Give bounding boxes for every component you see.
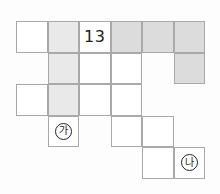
grid-cell — [79, 84, 111, 116]
number-grid-diagram: 13가나 — [0, 0, 220, 194]
grid-cell — [16, 84, 48, 116]
grid-cell — [174, 21, 206, 53]
grid-cell — [142, 116, 174, 148]
cell-number: 13 — [84, 27, 105, 46]
grid-cell — [48, 84, 80, 116]
grid-cell — [174, 53, 206, 85]
grid-cell — [48, 21, 80, 53]
grid-cell — [48, 53, 80, 85]
grid-cell — [16, 21, 48, 53]
grid-cell — [142, 147, 174, 179]
grid-cell — [111, 53, 143, 85]
number-cell: 13 — [79, 21, 111, 53]
grid-cell — [142, 21, 174, 53]
labeled-cell: 나 — [174, 147, 206, 179]
grid-cell — [79, 53, 111, 85]
labeled-cell: 가 — [48, 116, 80, 148]
grid-cell — [111, 116, 143, 148]
circled-label: 가 — [55, 123, 72, 140]
grid-cell — [111, 21, 143, 53]
grid-cell — [111, 84, 143, 116]
circled-label: 나 — [181, 154, 198, 171]
